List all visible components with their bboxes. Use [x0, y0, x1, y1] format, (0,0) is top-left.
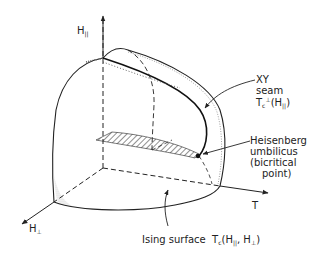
heisenberg-label-4: point): [262, 168, 292, 179]
outline-stipple-top: [86, 58, 103, 62]
xy-seam-label-2: seam: [256, 85, 283, 96]
h-parallel-label: H||: [77, 25, 89, 38]
xy-seam-label-3: Tc⊥(H||): [255, 96, 290, 110]
heisenberg-label-1: Heisenberg: [250, 135, 307, 146]
heisenberg-label-2: umbilicus: [250, 146, 298, 157]
t-label: T: [251, 200, 259, 211]
ising-surface-label: Ising surface Tc(H||, H⊥): [142, 234, 260, 247]
t-axis-dashed: [103, 168, 220, 186]
ising-surface-outline-bottom: [54, 186, 220, 210]
t-axis: [220, 186, 268, 193]
h-perp-axis: [22, 202, 54, 224]
xy-seam-pointer: [205, 80, 255, 108]
phase-diagram: H|| T H⊥ XY seam Tc⊥(H||) Heisenberg umb…: [0, 0, 312, 256]
heisenberg-pointer: [203, 141, 250, 154]
ising-pointer: [165, 190, 168, 226]
h-perp-label: H⊥: [29, 223, 42, 235]
heisenberg-bicritical-point: [196, 154, 201, 159]
ising-surface-outline-left: [53, 58, 103, 202]
hatched-spin-flop-plane: [96, 132, 199, 158]
heisenberg-label-3: (bicritical: [250, 157, 297, 168]
dashed-right-curve: [199, 156, 212, 184]
ising-surface-outline-right: [103, 48, 225, 186]
xy-seam-label-1: XY: [256, 74, 270, 85]
corner-stipple: [54, 175, 72, 206]
